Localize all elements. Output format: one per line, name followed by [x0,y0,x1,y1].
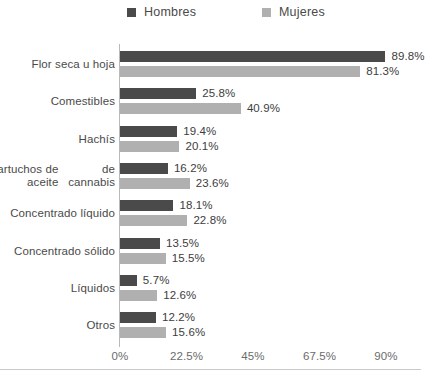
category-label: Flor seca u hoja [0,46,115,83]
bar-mujeres [120,141,179,152]
category-label: Concentrado líquido [0,195,115,232]
bar-value-label: 89.8% [391,50,424,63]
x-axis-tick-label: 67.5% [303,350,336,362]
category-label: Concentrado sólido [0,233,115,270]
x-axis: 0%22.5%45%67.5%90% [0,347,421,369]
bar-value-label: 22.8% [193,214,226,227]
bars-container: 5.7%12.6% [120,270,421,307]
bar-group: Concentrado líquido18.1%22.8% [0,195,421,232]
bar-value-label: 12.6% [163,289,196,302]
x-axis-tick-label: 22.5% [170,350,203,362]
bar-hombres [120,275,137,286]
bar-value-label: 15.6% [172,326,205,339]
bar-value-label: 19.4% [183,125,216,138]
bar-value-label: 25.8% [202,87,235,100]
bar-mujeres [120,327,166,338]
bar-hombres [120,126,177,137]
bar-value-label: 15.5% [172,252,205,265]
bar-mujeres [120,178,190,189]
bar-value-label: 13.5% [166,237,199,250]
bars-container: 16.2%23.6% [120,158,421,195]
bar-value-label: 20.1% [185,140,218,153]
bar-hombres [120,238,160,249]
bar-hombres [120,312,156,323]
bars-container: 12.2%15.6% [120,307,421,344]
bar-mujeres [120,215,187,226]
category-label: Comestibles [0,83,115,120]
bar-group: Comestibles25.8%40.9% [0,83,421,120]
bar-mujeres [120,290,157,301]
bar-value-label: 18.1% [179,199,212,212]
bar-hombres [120,88,196,99]
x-axis-tick-label: 90% [374,350,397,362]
bar-group: Hachís19.4%20.1% [0,121,421,158]
bars-container: 18.1%22.8% [120,195,421,232]
bar-group: Flor seca u hoja89.8%81.3% [0,46,421,83]
bar-group: Líquidos5.7%12.6% [0,270,421,307]
bar-value-label: 5.7% [143,274,170,287]
bar-group: Otros12.2%15.6% [0,307,421,344]
bar-group: Cartuchos de aceitede cannabis16.2%23.6% [0,158,421,195]
category-label: Otros [0,307,115,344]
category-label: Líquidos [0,270,115,307]
category-label: Cartuchos de aceitede cannabis [0,158,115,195]
bar-mujeres [120,66,360,77]
bar-hombres [120,163,168,174]
x-axis-tick-label: 0% [112,350,129,362]
bar-value-label: 23.6% [196,177,229,190]
bar-value-label: 40.9% [247,102,280,115]
bars-container: 89.8%81.3% [120,46,421,83]
x-axis-tick-label: 45% [241,350,264,362]
bottom-rule [0,369,421,370]
bars-container: 19.4%20.1% [120,121,421,158]
bars-container: 13.5%15.5% [120,233,421,270]
bars-container: 25.8%40.9% [120,83,421,120]
bar-value-label: 12.2% [162,311,195,324]
bar-mujeres [120,253,166,264]
bar-value-label: 81.3% [366,65,399,78]
bar-value-label: 16.2% [174,162,207,175]
bar-hombres [120,200,173,211]
bar-mujeres [120,103,241,114]
category-label: Hachís [0,121,115,158]
bar-hombres [120,51,385,62]
bar-group: Concentrado sólido13.5%15.5% [0,233,421,270]
